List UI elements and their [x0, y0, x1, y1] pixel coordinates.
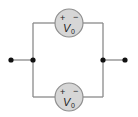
right-junction-node	[100, 57, 105, 62]
circuit-diagram: + − V 0 + − V 0	[0, 0, 138, 117]
negative-sign: −	[73, 12, 78, 22]
bottom-voltage-source: + − V 0	[55, 83, 83, 111]
source-subscript: 0	[71, 102, 75, 109]
left-junction-node	[30, 57, 35, 62]
right-terminal-node	[122, 57, 127, 62]
source-subscript: 0	[71, 28, 75, 35]
left-terminal-node	[8, 57, 13, 62]
top-voltage-source: + − V 0	[55, 9, 83, 37]
circuit-svg: + − V 0 + − V 0	[0, 0, 138, 117]
negative-sign: −	[73, 86, 78, 96]
